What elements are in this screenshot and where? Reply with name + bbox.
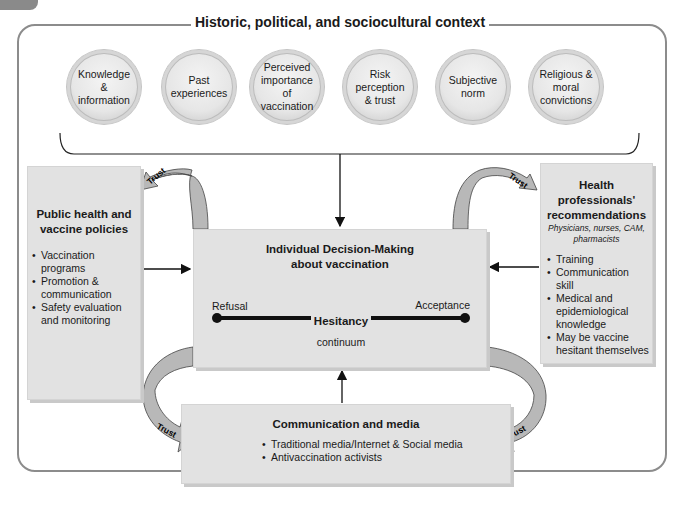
list-item: Antivaccination activists	[262, 451, 510, 464]
list-item: Traditional media/Internet & Social medi…	[262, 438, 510, 451]
list-item: Communication skill	[547, 266, 649, 292]
decision-title: Individual Decision-Making about vaccina…	[194, 242, 486, 272]
trust-arrow-top-right: Trust	[453, 168, 537, 229]
media-list: Traditional media/Internet & Social medi…	[262, 438, 510, 464]
list-item: Safety evaluation and monitoring	[32, 301, 136, 327]
acceptance-label: Acceptance	[415, 299, 470, 311]
list-item: Promotion & communication	[32, 275, 136, 301]
public-health-box: Public health and vaccine policies Vacci…	[27, 166, 141, 400]
list-item: Vaccination programs	[32, 249, 136, 275]
list-item: May be vaccine hesitant themselves	[547, 331, 649, 357]
continuum-label: continuum	[194, 336, 488, 348]
list-item: Training	[547, 253, 649, 266]
health-professionals-box: Health professionals' recommendations Ph…	[540, 163, 653, 364]
trust-arrow-top-left: Trust	[140, 165, 208, 229]
health-professionals-title: Health professionals' recommendations	[541, 178, 652, 223]
decision-box: Individual Decision-Making about vaccina…	[193, 229, 487, 368]
media-title: Communication and media	[182, 417, 510, 432]
factors-bracket	[60, 133, 639, 154]
health-professionals-list: Training Communication skill Medical and…	[547, 253, 649, 357]
list-item: Medical and epidemiological knowledge	[547, 292, 649, 331]
health-professionals-subtitle: Physicians, nurses, CAM, pharmacists	[541, 223, 652, 245]
public-health-title: Public health and vaccine policies	[28, 207, 140, 237]
public-health-list: Vaccination programs Promotion & communi…	[32, 249, 136, 327]
media-box: Communication and media Traditional medi…	[181, 404, 511, 484]
hesitancy-label: Hesitancy	[311, 315, 371, 327]
